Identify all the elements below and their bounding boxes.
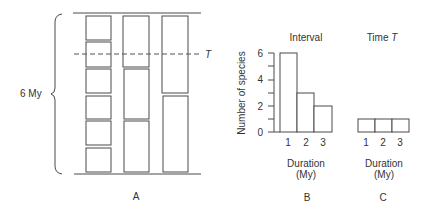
bar-duration-3 <box>314 106 332 132</box>
chart-b-title: Interval <box>290 32 323 43</box>
x-tick-label: 3 <box>320 137 326 148</box>
figure: T 6 My A Interval Number of species 0 2 … <box>0 0 428 214</box>
x-axis-unit: (My) <box>296 169 316 180</box>
panel-b-label: B <box>304 192 311 203</box>
bar-duration-2 <box>375 119 392 132</box>
species-range-box <box>123 16 149 67</box>
panel-c-chart: Time T 1 2 3 Duration (My) C <box>358 32 409 203</box>
species-range-box <box>86 121 111 145</box>
species-range-box <box>86 96 111 119</box>
y-tick-label: 6 <box>257 48 263 59</box>
panel-b-chart: Interval Number of species 0 2 4 6 1 2 3… <box>236 32 332 203</box>
species-range-box <box>86 16 111 40</box>
species-range-box <box>86 69 111 93</box>
y-tick-label: 2 <box>257 101 263 112</box>
species-range-box <box>163 96 188 172</box>
chart-c-title: Time T <box>367 32 399 43</box>
species-range-box <box>124 69 149 119</box>
x-tick-label: 1 <box>363 137 369 148</box>
x-tick-label: 2 <box>303 137 309 148</box>
time-t-label: T <box>205 49 212 60</box>
panel-a: T 6 My A <box>20 13 212 202</box>
column-1-My <box>86 16 111 172</box>
y-tick-label: 0 <box>257 127 263 138</box>
y-tick-label: 4 <box>257 74 263 85</box>
column-3-My <box>162 16 188 172</box>
panel-a-label: A <box>133 191 140 202</box>
x-axis-label: Duration <box>365 158 403 169</box>
x-tick-label: 1 <box>285 137 291 148</box>
bar-duration-1 <box>358 119 375 132</box>
column-2-My <box>123 16 149 172</box>
species-range-box <box>86 148 111 172</box>
x-tick-label: 2 <box>380 137 386 148</box>
bar-duration-3 <box>392 119 409 132</box>
panel-c-label: C <box>379 192 386 203</box>
y-axis-label: Number of species <box>236 51 247 134</box>
brace-icon <box>51 14 62 174</box>
x-tick-label: 3 <box>397 137 403 148</box>
x-axis-unit: (My) <box>374 169 394 180</box>
span-label: 6 My <box>20 88 42 99</box>
bar-duration-1 <box>280 53 297 132</box>
bar-duration-2 <box>297 93 314 132</box>
x-axis-label: Duration <box>287 158 325 169</box>
species-range-box <box>124 121 149 172</box>
